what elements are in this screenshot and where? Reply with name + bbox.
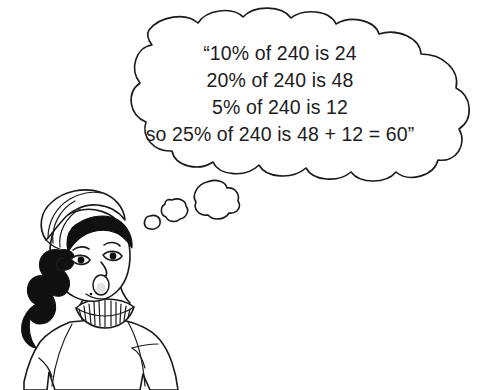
large-trail-bubble — [194, 180, 239, 219]
mouth-inner-shadow — [97, 283, 106, 293]
thought-line-3: 5% of 240 is 12 — [120, 94, 440, 121]
illustration-canvas: “10% of 240 is 24 20% of 240 is 48 5% of… — [0, 0, 491, 390]
thought-line-2: 20% of 240 is 48 — [120, 67, 440, 94]
cheek-dot — [90, 293, 93, 296]
small-trail-bubble — [144, 215, 160, 229]
girl-torso — [24, 318, 178, 390]
thought-bubble-text: “10% of 240 is 24 20% of 240 is 48 5% of… — [120, 40, 440, 148]
thought-line-4: so 25% of 240 is 48 + 12 = 60” — [120, 121, 440, 148]
thought-line-1: “10% of 240 is 24 — [120, 40, 440, 67]
left-pupil — [78, 257, 85, 264]
medium-trail-bubble — [161, 199, 187, 222]
thought-trail-bubbles — [144, 180, 239, 229]
right-pupil — [110, 253, 117, 260]
